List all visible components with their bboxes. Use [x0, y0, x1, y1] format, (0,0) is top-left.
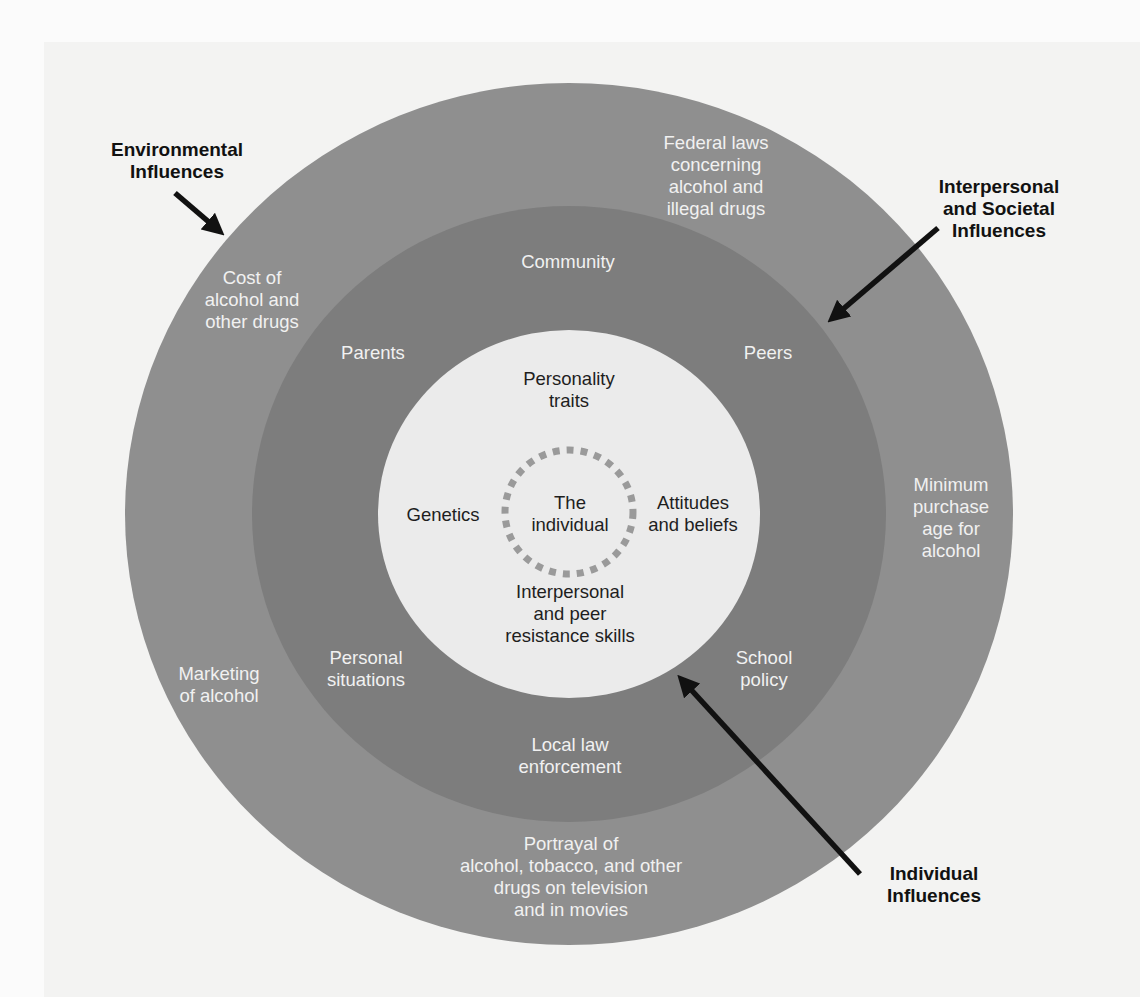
middle-item-peers: Peers: [744, 342, 792, 364]
middle-item-personal-situations: Personal situations: [327, 647, 405, 691]
outer-item-minimum-age: Minimum purchase age for alcohol: [913, 474, 989, 562]
middle-item-parents: Parents: [341, 342, 405, 364]
middle-item-school-policy: School policy: [736, 647, 793, 691]
middle-item-local-law: Local law enforcement: [519, 734, 622, 778]
inner-item-resistance-skills: Interpersonal and peer resistance skills: [505, 581, 635, 647]
callout-individual: Individual Influences: [887, 863, 981, 907]
outer-item-federal-laws: Federal laws concerning alcohol and ille…: [664, 132, 769, 220]
middle-item-community: Community: [521, 251, 615, 273]
outer-item-cost: Cost of alcohol and other drugs: [205, 267, 300, 333]
outer-item-portrayal: Portrayal of alcohol, tobacco, and other…: [460, 833, 682, 921]
center-label-individual: The individual: [531, 492, 608, 536]
callout-environmental: Environmental Influences: [111, 139, 243, 183]
environmental-arrow-icon: [175, 193, 217, 229]
page: Federal laws concerning alcohol and ille…: [0, 0, 1140, 997]
inner-item-genetics: Genetics: [406, 504, 479, 526]
outer-item-marketing: Marketing of alcohol: [178, 663, 259, 707]
callout-interpersonal-societal: Interpersonal and Societal Influences: [939, 176, 1059, 242]
inner-item-attitudes-beliefs: Attitudes and beliefs: [648, 492, 737, 536]
inner-item-personality-traits: Personality traits: [523, 368, 615, 412]
